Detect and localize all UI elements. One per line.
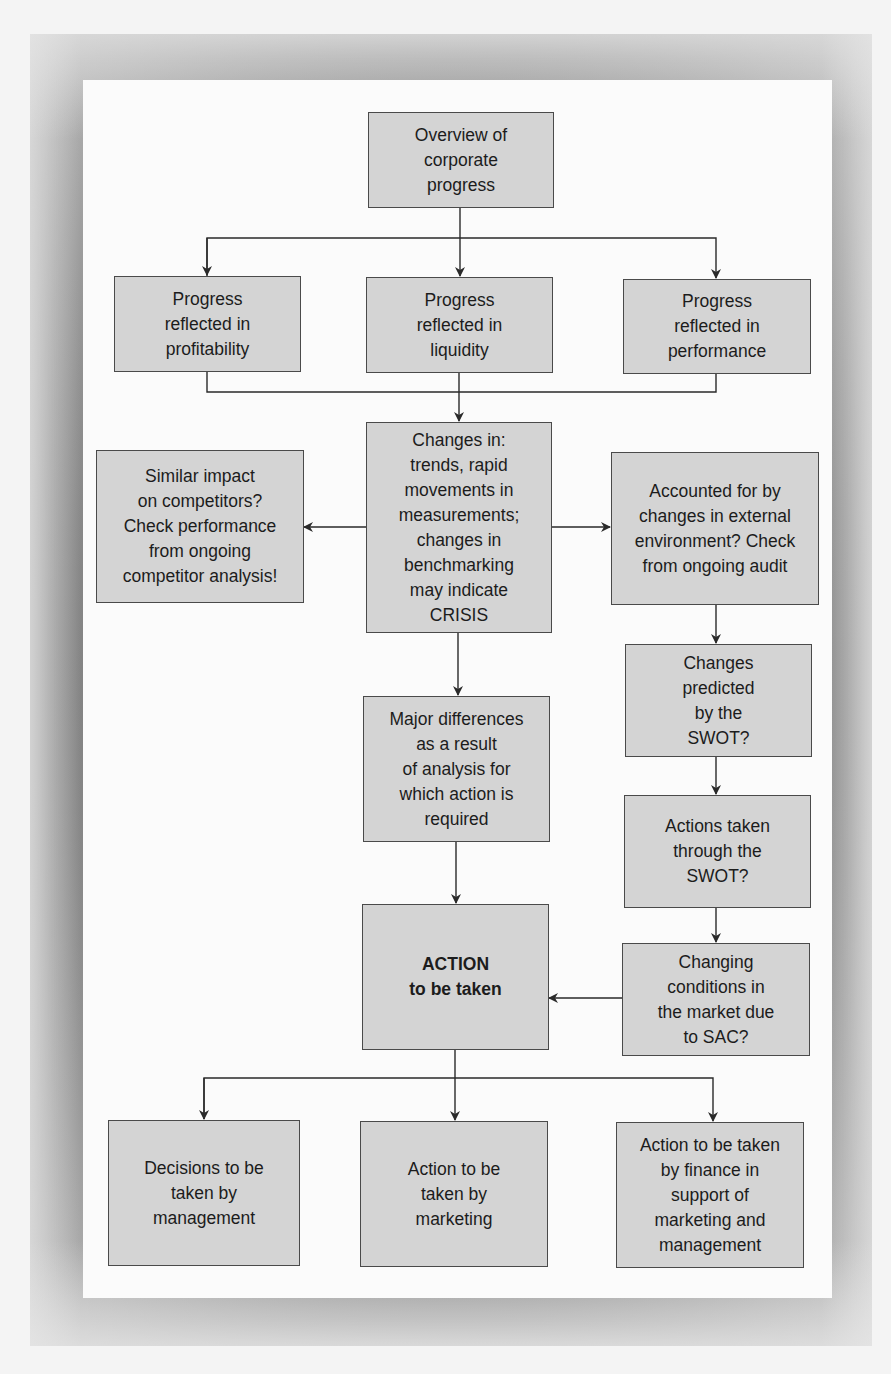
node-action: ACTION to be taken bbox=[362, 904, 549, 1050]
node-label: Progress reflected in liquidity bbox=[417, 288, 503, 363]
node-label: Decisions to be taken by management bbox=[144, 1156, 264, 1231]
node-performance: Progress reflected in performance bbox=[623, 279, 811, 374]
node-label: Major differences as a result of analysi… bbox=[390, 707, 524, 832]
node-label: Overview of corporate progress bbox=[415, 123, 507, 198]
node-marketing: Action to be taken by marketing bbox=[360, 1121, 548, 1267]
node-label: Changing conditions in the market due to… bbox=[658, 950, 775, 1050]
node-major-differences: Major differences as a result of analysi… bbox=[363, 696, 550, 842]
node-label: Changes predicted by the SWOT? bbox=[683, 651, 755, 751]
node-overview: Overview of corporate progress bbox=[368, 112, 554, 208]
node-label: Similar impact on competitors? Check per… bbox=[123, 464, 278, 589]
node-changes: Changes in: trends, rapid movements in m… bbox=[366, 422, 552, 633]
node-competitors: Similar impact on competitors? Check per… bbox=[96, 450, 304, 603]
node-label: Action to be taken by marketing bbox=[408, 1157, 500, 1232]
node-finance: Action to be taken by finance in support… bbox=[616, 1122, 804, 1268]
node-external: Accounted for by changes in external env… bbox=[611, 452, 819, 605]
node-label: Actions taken through the SWOT? bbox=[665, 814, 770, 889]
node-swot-actions: Actions taken through the SWOT? bbox=[624, 795, 811, 908]
node-market-conditions: Changing conditions in the market due to… bbox=[622, 943, 810, 1056]
node-label: Progress reflected in profitability bbox=[165, 287, 251, 362]
node-profitability: Progress reflected in profitability bbox=[114, 276, 301, 372]
node-label: Progress reflected in performance bbox=[668, 289, 766, 364]
node-label: Action to be taken by finance in support… bbox=[640, 1133, 780, 1258]
node-management: Decisions to be taken by management bbox=[108, 1120, 300, 1266]
node-swot-predicted: Changes predicted by the SWOT? bbox=[625, 644, 812, 757]
node-label: Changes in: trends, rapid movements in m… bbox=[399, 428, 520, 628]
node-liquidity: Progress reflected in liquidity bbox=[366, 277, 553, 373]
node-label: Accounted for by changes in external env… bbox=[635, 479, 796, 579]
node-label: ACTION to be taken bbox=[409, 952, 501, 1002]
